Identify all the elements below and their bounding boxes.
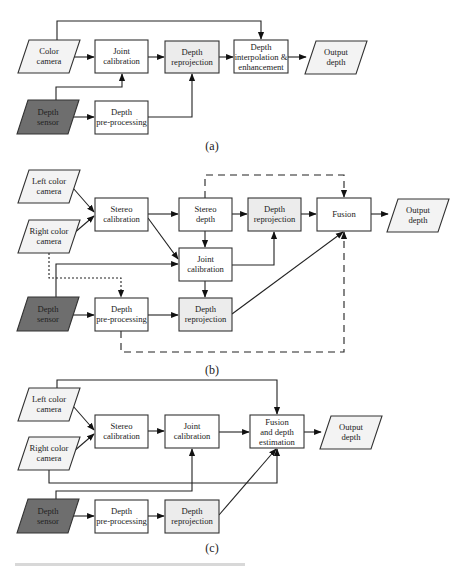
node-label: Left color bbox=[32, 176, 66, 186]
node-label: reprojection bbox=[254, 214, 296, 224]
node-label: Stereo bbox=[195, 204, 217, 214]
arrow-color-camera-to-interpolation bbox=[57, 21, 261, 40]
arrow-joint-calibration-to-reprojection bbox=[232, 232, 274, 265]
node-depth-reprojection: Depth reprojection bbox=[165, 500, 219, 533]
node-label: and depth bbox=[260, 427, 294, 437]
node-label: camera bbox=[37, 453, 62, 463]
arrow-stereo-calibration-to-joint-calibration bbox=[148, 218, 178, 259]
node-fusion-depth-estimation: Fusion and depth estimation bbox=[250, 415, 304, 448]
node-label: camera bbox=[37, 236, 62, 246]
node-label: sensor bbox=[37, 314, 59, 324]
node-fusion: Fusion bbox=[317, 198, 371, 231]
arrow-left-camera-to-stereo-calibration bbox=[73, 406, 94, 430]
node-label: Depth bbox=[111, 506, 133, 516]
node-label: camera bbox=[37, 404, 62, 414]
arrow-bottom-reprojection-to-fusion bbox=[232, 232, 343, 314]
node-label: sensor bbox=[37, 117, 59, 127]
node-label: Depth bbox=[195, 304, 217, 314]
node-label: Right color bbox=[30, 443, 69, 453]
node-label: Fusion bbox=[265, 417, 289, 427]
node-label: Depth bbox=[37, 506, 59, 516]
node-joint-calibration: Joint calibration bbox=[95, 40, 148, 73]
node-label: Fusion bbox=[332, 209, 356, 219]
node-depth-interpolation-enhancement: Depth interpolation & enhancement bbox=[234, 40, 288, 73]
node-label: Joint bbox=[113, 46, 130, 56]
node-label: Depth bbox=[264, 204, 286, 214]
node-left-color-camera: Left color camera bbox=[18, 388, 80, 421]
node-depth-reprojection-top: Depth reprojection bbox=[248, 198, 301, 231]
node-label: sensor bbox=[37, 516, 59, 526]
node-label: Right color bbox=[30, 226, 69, 236]
node-label: calibration bbox=[103, 56, 140, 66]
node-label: interpolation & bbox=[235, 52, 288, 62]
node-depth-preprocessing: Depth pre-processing bbox=[95, 500, 148, 533]
node-label: depth bbox=[408, 215, 428, 225]
node-stereo-calibration: Stereo calibration bbox=[95, 198, 148, 231]
arrow-depth-sensor-to-joint-calibration bbox=[56, 264, 178, 297]
node-color-camera: Color camera bbox=[18, 40, 80, 73]
node-label: reprojection bbox=[171, 516, 213, 526]
node-depth-reprojection-bottom: Depth reprojection bbox=[179, 298, 232, 331]
node-depth-preprocessing: Depth pre-processing bbox=[95, 101, 148, 134]
node-label: depth bbox=[341, 432, 361, 442]
node-output-depth: Output depth bbox=[305, 41, 367, 74]
node-label: pre-processing bbox=[96, 117, 147, 127]
node-label: calibration bbox=[174, 431, 211, 441]
truncated-figure-caption bbox=[15, 563, 245, 566]
node-label: camera bbox=[37, 56, 62, 66]
node-label: Stereo bbox=[111, 421, 133, 431]
caption-a: (a) bbox=[205, 139, 218, 153]
node-label: Output bbox=[324, 47, 348, 57]
node-label: enhancement bbox=[238, 62, 284, 72]
node-left-color-camera: Left color camera bbox=[18, 170, 80, 203]
node-output-depth: Output depth bbox=[387, 199, 449, 232]
node-label: Output bbox=[406, 205, 430, 215]
node-label: Output bbox=[339, 422, 363, 432]
node-stereo-calibration: Stereo calibration bbox=[95, 415, 148, 448]
node-label: Joint bbox=[184, 421, 201, 431]
node-label: depth bbox=[196, 214, 216, 224]
node-stereo-depth: Stereo depth bbox=[179, 198, 232, 231]
node-right-color-camera: Right color camera bbox=[18, 437, 80, 470]
node-label: Joint bbox=[197, 254, 214, 264]
node-label: Depth bbox=[181, 47, 203, 57]
caption-c: (c) bbox=[205, 541, 218, 555]
node-label: Depth bbox=[37, 304, 59, 314]
node-depth-sensor: Depth sensor bbox=[17, 100, 79, 134]
node-joint-calibration: Joint calibration bbox=[179, 248, 232, 281]
node-label: reprojection bbox=[185, 314, 227, 324]
node-label: Depth bbox=[250, 42, 272, 52]
node-depth-sensor: Depth sensor bbox=[17, 297, 79, 331]
node-depth-reprojection: Depth reprojection bbox=[165, 41, 219, 73]
arrow-preprocessing-to-reprojection bbox=[148, 74, 192, 117]
node-label: Color bbox=[39, 46, 59, 56]
node-label: reprojection bbox=[171, 57, 213, 67]
arrow-depth-sensor-to-joint-calibration bbox=[56, 449, 192, 499]
node-label: Depth bbox=[111, 304, 133, 314]
node-depth-preprocessing: Depth pre-processing bbox=[95, 298, 148, 331]
node-label: calibration bbox=[103, 431, 140, 441]
arrow-left-camera-to-fusion bbox=[57, 380, 277, 414]
node-output-depth: Output depth bbox=[320, 416, 382, 449]
node-depth-sensor: Depth sensor bbox=[17, 499, 79, 533]
node-label: calibration bbox=[187, 264, 224, 274]
node-label: depth bbox=[326, 57, 346, 67]
diagram-c: Left color camera Right color camera Ste… bbox=[17, 380, 382, 555]
dotted-arrow-right-camera-to-preprocessing bbox=[49, 253, 121, 297]
caption-b: (b) bbox=[205, 363, 219, 377]
diagram-a: Color camera Joint calibration Depth rep… bbox=[17, 21, 367, 153]
diagram-b: Left color camera Right color camera Ste… bbox=[17, 170, 449, 377]
node-label: pre-processing bbox=[96, 314, 147, 324]
figure-canvas: Color camera Joint calibration Depth rep… bbox=[0, 0, 463, 570]
node-label: Depth bbox=[111, 107, 133, 117]
node-label: camera bbox=[37, 186, 62, 196]
arrow-depth-sensor-to-joint-calibration bbox=[56, 74, 122, 100]
dashed-arrow-stereo-depth-to-fusion bbox=[205, 175, 344, 198]
node-label: Stereo bbox=[111, 204, 133, 214]
node-label: pre-processing bbox=[96, 516, 147, 526]
node-label: Depth bbox=[181, 506, 203, 516]
node-joint-calibration: Joint calibration bbox=[165, 415, 219, 448]
arrow-reprojection-to-fusion bbox=[219, 449, 276, 515]
node-label: estimation bbox=[259, 437, 296, 447]
node-label: calibration bbox=[103, 214, 140, 224]
